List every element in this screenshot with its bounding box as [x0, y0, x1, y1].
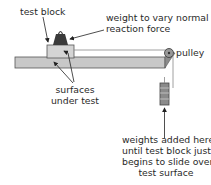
- label-weight-line2: reaction force: [106, 23, 170, 34]
- label-surfaces-line2: under test: [48, 95, 102, 106]
- arrow-test-block: [43, 17, 48, 42]
- weight-hook: [59, 32, 63, 35]
- label-surfaces-line1: surfaces: [52, 84, 98, 95]
- label-weights-line4: test surface: [122, 167, 210, 178]
- test-block: [47, 45, 74, 58]
- plank: [15, 57, 165, 68]
- label-weights-line2: until test block just: [122, 145, 210, 156]
- hanging-weights: [160, 83, 169, 105]
- label-weights-line3: begins to slide over: [122, 156, 210, 167]
- label-weights-line1: weights added here: [122, 134, 210, 145]
- label-weight-line1: weight to vary normal: [106, 12, 209, 23]
- label-test-block: test block: [20, 6, 65, 17]
- weight-icon: [53, 34, 68, 45]
- label-pulley: pulley: [176, 47, 204, 58]
- arrow-weight: [70, 30, 104, 39]
